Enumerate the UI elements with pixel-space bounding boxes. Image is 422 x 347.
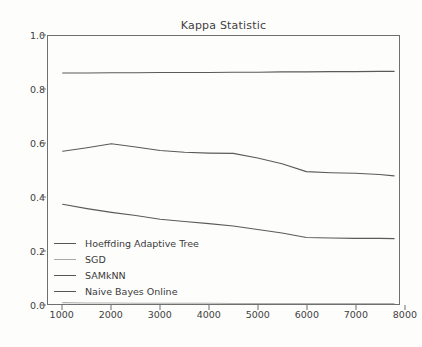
legend-item-label: SGD	[85, 254, 106, 265]
x-axis-tick-label: 4000	[185, 309, 233, 320]
legend-swatch-icon	[54, 291, 76, 292]
series-line	[63, 303, 395, 304]
legend-item[interactable]: SGD	[54, 251, 199, 267]
x-axis-tick-mark	[61, 305, 62, 310]
x-axis-tick-label: 7000	[332, 309, 380, 320]
y-axis-tick-label: 0.6	[5, 138, 45, 149]
series-line	[63, 144, 395, 176]
legend-item[interactable]: Naive Bayes Online	[54, 283, 199, 299]
series-line	[63, 71, 395, 73]
y-axis-tick-label: 0.4	[5, 192, 45, 203]
y-axis-tick-mark	[41, 197, 46, 198]
x-axis-tick-mark	[257, 305, 258, 310]
legend-item-label: SAMkNN	[85, 270, 126, 281]
legend-item[interactable]: Hoeffding Adaptive Tree	[54, 235, 199, 251]
x-axis-tick-mark	[159, 305, 160, 310]
y-axis-tick-mark	[41, 35, 46, 36]
y-axis-tick-label: 0.2	[5, 246, 45, 257]
y-axis-tick-label: 0.8	[5, 84, 45, 95]
x-axis-tick-mark	[110, 305, 111, 310]
chart-figure: Kappa Statistic 0.00.20.40.60.81.0 10002…	[0, 0, 422, 347]
x-axis-tick-label: 6000	[283, 309, 331, 320]
x-axis-tick-label: 5000	[234, 309, 282, 320]
x-axis-tick-mark	[355, 305, 356, 310]
legend-swatch-icon	[54, 275, 76, 276]
y-axis-tick-mark	[41, 305, 46, 306]
x-axis-tick-label: 2000	[87, 309, 135, 320]
y-axis-tick-label: 1.0	[5, 30, 45, 41]
chart-legend: Hoeffding Adaptive TreeSGDSAMkNNNaive Ba…	[52, 233, 203, 301]
y-axis-tick-mark	[41, 251, 46, 252]
x-axis-tick-label: 8000	[381, 309, 422, 320]
chart-title: Kappa Statistic	[47, 19, 400, 32]
legend-item-label: Hoeffding Adaptive Tree	[85, 238, 199, 249]
x-axis-tick-mark	[306, 305, 307, 310]
y-axis-tick-mark	[41, 143, 46, 144]
legend-swatch-icon	[54, 259, 76, 260]
x-axis-tick-label: 3000	[136, 309, 184, 320]
x-axis-tick-mark	[208, 305, 209, 310]
legend-swatch-icon	[54, 243, 76, 244]
legend-item[interactable]: SAMkNN	[54, 267, 199, 283]
legend-item-label: Naive Bayes Online	[85, 286, 177, 297]
x-axis-tick-label: 1000	[38, 309, 86, 320]
y-axis-tick-mark	[41, 89, 46, 90]
x-axis-tick-mark	[404, 305, 405, 310]
